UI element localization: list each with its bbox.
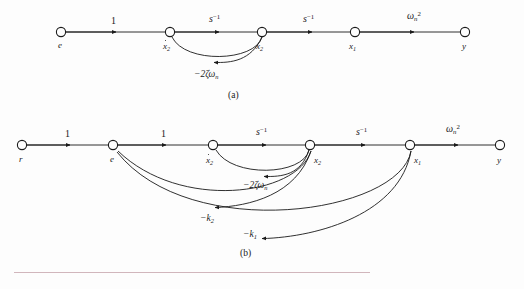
edge-label-b-gain-neg-k2: −k2: [200, 214, 214, 224]
edge-b-x2-to-x2dot-feedback: [216, 150, 309, 170]
edge-a-x2-to-x2dot-feedback: [172, 37, 262, 57]
arrowhead-a-feedback: [214, 37, 262, 62]
arrowhead-b-zeta-feedback: [264, 150, 309, 176]
footer-divider-rule: [14, 272, 370, 273]
edge-label-b-gain-neg-k1: −k1: [243, 230, 257, 240]
arrowhead-b-k1-feedback: [262, 151, 411, 239]
panel-b-edges: [27, 145, 495, 239]
edge-b-x2-to-e-k2: [118, 151, 311, 191]
node-label-b-y: y: [497, 156, 501, 165]
node-a-e[interactable]: [56, 27, 65, 36]
edge-label-b-gain-s-inv-1: s−1: [256, 127, 267, 137]
node-a-x1[interactable]: [350, 27, 359, 36]
node-label-b-r: r: [19, 155, 23, 164]
node-label-b-x2dot: x2: [206, 156, 213, 166]
edge-label-b-gain-1-first: 1: [65, 129, 70, 139]
node-label-a-e: e: [58, 41, 62, 50]
node-label-b-x1: x1: [414, 156, 421, 166]
node-label-b-e: e: [110, 155, 114, 164]
caption-panel-b: (b): [240, 249, 251, 259]
edge-label-b-gain-1-second: 1: [161, 129, 166, 139]
caption-panel-a: (a): [228, 91, 239, 101]
node-label-a-x2: x2: [256, 42, 263, 52]
node-b-x2[interactable]: [305, 140, 314, 149]
node-a-x2[interactable]: [257, 27, 266, 36]
node-b-y[interactable]: [495, 140, 504, 149]
edge-label-a-gain-wn-squared: ωn2: [407, 11, 421, 23]
edge-label-a-gain-1: 1: [111, 16, 116, 26]
edge-label-a-gain-s-inv-2: s−1: [303, 14, 314, 24]
node-a-y[interactable]: [460, 27, 469, 36]
edge-label-b-gain-wn-squared: ωn2: [446, 124, 460, 136]
edge-label-b-gain-neg-2-zeta-wn: −2ζωn: [243, 181, 267, 191]
edge-label-b-gain-s-inv-2: s−1: [356, 127, 367, 137]
node-label-b-x2: x2: [314, 156, 321, 166]
node-b-x2dot[interactable]: [208, 140, 217, 149]
node-label-a-x1: x1: [349, 42, 356, 52]
node-label-a-x2dot: x2: [163, 42, 170, 52]
edge-label-a-gain-neg-2-zeta-wn: −2ζωn: [194, 70, 218, 80]
figure-canvas: e x2 x2 x1 y 1 s−1 s−1 ωn2 −2ζωn (a) r e…: [0, 0, 524, 289]
edge-label-a-gain-s-inv-1: s−1: [209, 14, 220, 24]
node-a-x2dot[interactable]: [165, 27, 174, 36]
node-b-x1[interactable]: [405, 140, 414, 149]
node-label-a-y: y: [462, 42, 466, 51]
node-b-e[interactable]: [108, 140, 117, 149]
node-b-r[interactable]: [17, 140, 26, 149]
